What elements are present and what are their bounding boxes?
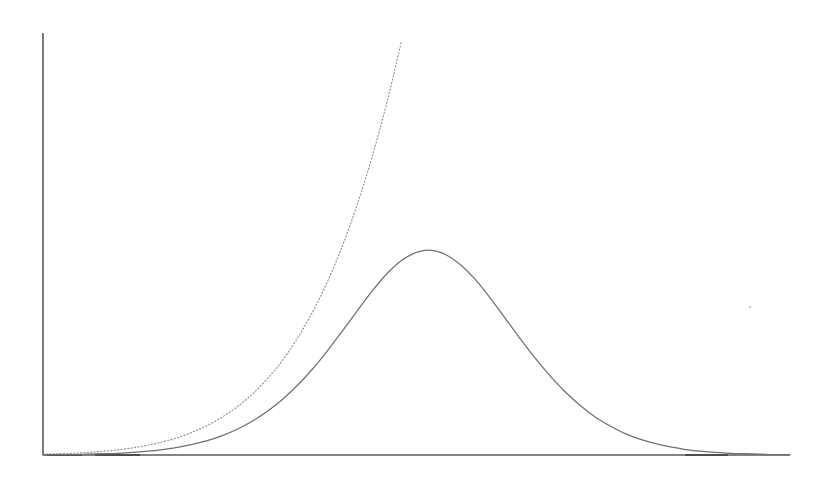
scan-speck-artifact xyxy=(749,306,751,308)
exponential-curve-line xyxy=(43,41,402,454)
chart-plot-area xyxy=(0,0,831,483)
gaussian-curve-line xyxy=(43,250,790,455)
chart-figure: Faded scanned line plot with two unlabel… xyxy=(0,0,831,483)
